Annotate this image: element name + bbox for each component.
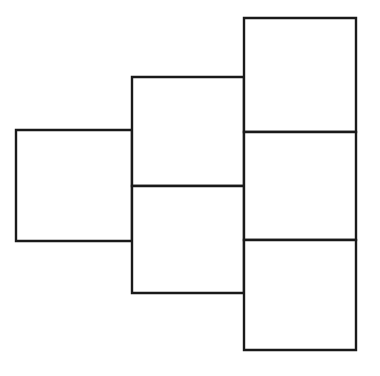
middle-upper-square	[132, 77, 244, 186]
left-square	[16, 130, 132, 241]
hexomino-net-diagram	[0, 0, 380, 376]
right-middle-square	[244, 132, 356, 240]
figure-canvas	[0, 0, 380, 376]
right-top-square	[244, 18, 356, 132]
right-bottom-square	[244, 240, 356, 350]
middle-lower-square	[132, 186, 244, 293]
